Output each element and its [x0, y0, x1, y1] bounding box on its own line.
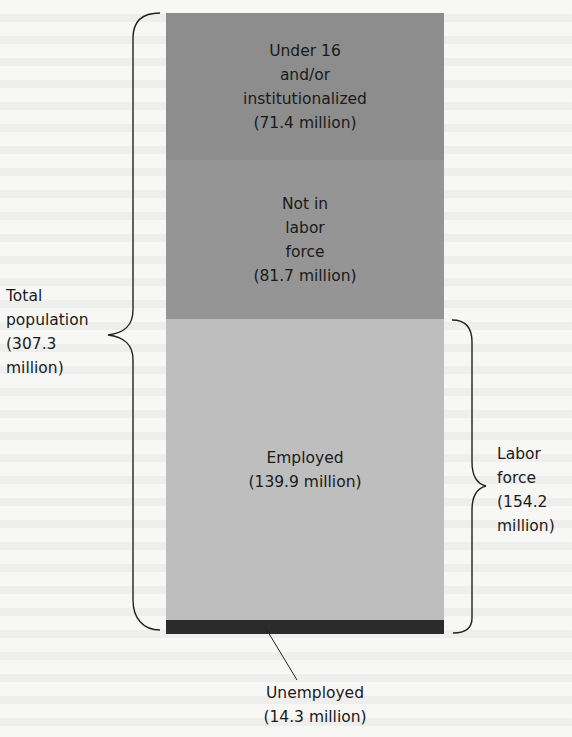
labor-force-brace-icon: [452, 320, 486, 633]
total-population-label: Total population (307.3 million): [6, 284, 88, 380]
segment-label-under-16: Under 16 and/or institutionalized (71.4 …: [243, 39, 367, 135]
segment-unemployed: [166, 620, 444, 634]
labor-force-label: Labor force (154.2 million): [497, 442, 555, 538]
unemployed-leader-line: [265, 627, 297, 680]
unemployed-label: Unemployed (14.3 million): [240, 681, 390, 729]
population-stacked-bar: Under 16 and/or institutionalized (71.4 …: [166, 13, 444, 634]
segment-employed: Employed (139.9 million): [166, 319, 444, 620]
total-population-brace-icon: [108, 13, 160, 630]
segment-label-employed: Employed (139.9 million): [248, 446, 361, 494]
segment-label-not-in-labor-force: Not in labor force (81.7 million): [253, 192, 356, 288]
segment-not-in-labor-force: Not in labor force (81.7 million): [166, 160, 444, 319]
segment-under-16-institutionalized: Under 16 and/or institutionalized (71.4 …: [166, 13, 444, 160]
